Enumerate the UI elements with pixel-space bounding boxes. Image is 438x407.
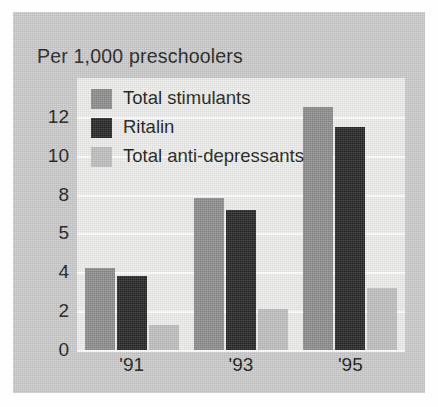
chart-legend: Total stimulantsRitalinTotal anti-depres…	[91, 84, 304, 171]
legend-swatch-icon	[91, 89, 112, 109]
y-axis-tick-label: 10	[48, 145, 69, 167]
bar-chart-figure: Per 1,000 preschoolers 121085420 '91'93'…	[0, 0, 438, 407]
y-axis-tick-label: 12	[48, 106, 69, 128]
legend-item: Ritalin	[91, 113, 304, 142]
bar	[117, 276, 147, 350]
bar	[226, 210, 256, 350]
legend-item-label: Ritalin	[123, 118, 174, 137]
y-axis-tick-label: 2	[58, 300, 69, 322]
x-axis-tick-label: '93	[229, 354, 254, 376]
bar	[258, 309, 288, 350]
x-axis-tick-labels: '91'93'95	[77, 352, 405, 388]
bar	[335, 127, 365, 350]
y-axis-tick-label: 8	[58, 184, 69, 206]
bar	[85, 268, 115, 350]
y-axis-tick-label: 5	[58, 222, 69, 244]
x-axis-tick-label: '91	[119, 354, 144, 376]
legend-item-label: Total anti-depressants	[123, 147, 304, 166]
y-axis-tick-label: 0	[58, 339, 69, 361]
legend-swatch-icon	[91, 147, 112, 167]
bar	[303, 107, 333, 350]
y-axis-tick-label: 4	[58, 261, 69, 283]
legend-item: Total anti-depressants	[91, 142, 304, 171]
bar	[367, 288, 397, 350]
legend-swatch-icon	[91, 118, 112, 138]
chart-panel: Per 1,000 preschoolers 121085420 '91'93'…	[13, 12, 425, 393]
legend-item-label: Total stimulants	[123, 89, 251, 108]
y-axis-tick-labels: 121085420	[13, 12, 77, 393]
bar	[194, 198, 224, 350]
bar	[149, 325, 179, 350]
x-axis-tick-label: '95	[338, 354, 363, 376]
legend-item: Total stimulants	[91, 84, 304, 113]
